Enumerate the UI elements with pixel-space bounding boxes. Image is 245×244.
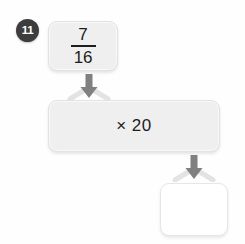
arrow-down-icon	[186, 155, 203, 179]
operation-label: × 20	[116, 116, 152, 136]
fraction: 7 16	[71, 26, 96, 66]
input-fraction-box: 7 16	[48, 21, 118, 71]
arrow-down-icon	[81, 74, 98, 98]
operation-box: × 20	[48, 100, 220, 152]
fraction-denominator: 16	[71, 48, 96, 66]
worksheet-canvas: 11 7 16 × 20	[0, 0, 245, 244]
arrow-operation-to-output	[170, 152, 218, 182]
answer-input-box[interactable]	[160, 183, 228, 236]
arrow-input-to-operation	[65, 71, 113, 101]
fraction-bar	[71, 45, 96, 47]
fraction-numerator: 7	[75, 26, 90, 44]
problem-number-badge: 11	[16, 19, 39, 42]
